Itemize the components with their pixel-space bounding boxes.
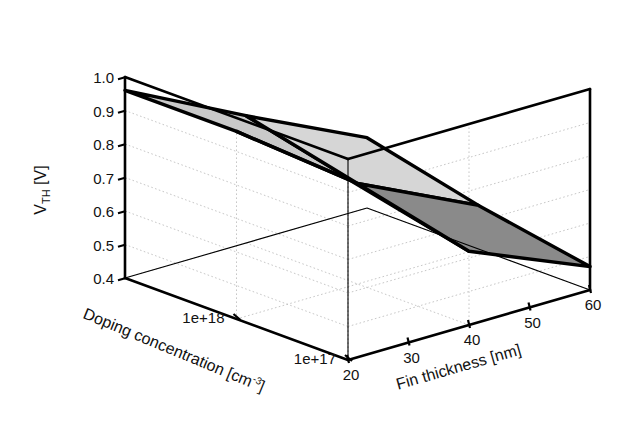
z-tick-label: 0.9 xyxy=(93,103,114,120)
y-tick-label: 60 xyxy=(585,296,602,313)
z-tick-label: 0.7 xyxy=(93,170,114,187)
surface-plot-3d: 1.00.90.80.70.60.50.41e+181e+17203040506… xyxy=(0,0,638,441)
y-tick-label: 40 xyxy=(464,331,481,348)
z-tick-label: 0.5 xyxy=(93,237,114,254)
y-tick-label: 50 xyxy=(524,314,541,331)
plot-background xyxy=(0,0,638,441)
y-tick-label: 30 xyxy=(403,349,420,366)
z-axis-label-sub: TH xyxy=(40,189,52,204)
z-axis-label-main: V xyxy=(32,204,49,215)
z-tick-label: 0.8 xyxy=(93,136,114,153)
z-tick-label: 0.4 xyxy=(93,270,114,287)
y-tick-label: 20 xyxy=(343,366,360,383)
z-axis-label-unit: [V] xyxy=(32,165,49,189)
x-tick-label: 1e+18 xyxy=(182,309,224,326)
z-tick-label: 0.6 xyxy=(93,203,114,220)
z-tick-label: 1.0 xyxy=(93,69,114,86)
x-tick-label: 1e+17 xyxy=(294,350,336,367)
